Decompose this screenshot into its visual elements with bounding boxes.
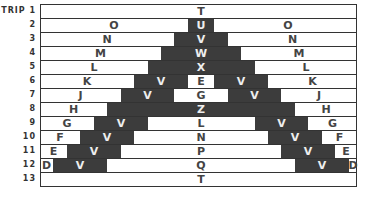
strip-row: EKKVV — [40, 75, 357, 89]
strip-row: T — [40, 4, 357, 19]
right-letter: J — [309, 89, 329, 102]
right-letter: O — [278, 19, 298, 32]
center-letter: T — [191, 5, 211, 18]
left-letter: D — [37, 159, 57, 172]
left-letter: O — [104, 19, 124, 32]
strip-number-label: 2 — [29, 20, 36, 29]
left-letter: K — [77, 75, 97, 88]
strip-number-label: 12 — [23, 160, 36, 169]
strip-number-label: 5 — [29, 62, 36, 71]
strip-row: WMM — [40, 47, 357, 61]
strip-row: UOO — [40, 19, 357, 33]
left-letter: F — [50, 131, 70, 144]
strip-row: QDDVV — [40, 159, 357, 173]
center-letter: X — [191, 61, 211, 74]
strip-row: ZHH — [40, 103, 357, 117]
strip-row: NFFVV — [40, 131, 357, 145]
center-letter: E — [191, 75, 211, 88]
strip-row: T — [40, 173, 357, 187]
center-letter: N — [191, 131, 211, 144]
v-letter-right: V — [272, 117, 292, 130]
right-letter: M — [289, 47, 309, 60]
strip-row: GJJVV — [40, 89, 357, 103]
strip-row: VNN — [40, 33, 357, 47]
strip-row: XLL — [40, 61, 357, 75]
strip-number-label: STRIP 1 — [0, 6, 36, 15]
v-letter-right: V — [312, 159, 332, 172]
center-letter: Q — [191, 159, 211, 172]
v-letter-right: V — [231, 75, 251, 88]
right-letter: F — [330, 131, 350, 144]
right-letter: K — [303, 75, 323, 88]
v-letter-left: V — [84, 145, 104, 158]
right-letter: L — [296, 61, 316, 74]
v-letter-left: V — [70, 159, 90, 172]
strip-number-label: 7 — [29, 90, 36, 99]
right-letter: N — [283, 33, 303, 46]
v-letter-right: V — [245, 89, 265, 102]
left-letter: H — [64, 103, 84, 116]
v-letter-left: V — [138, 89, 158, 102]
strip-number-label: 10 — [23, 132, 36, 141]
left-letter: L — [84, 61, 104, 74]
strip-number-label: 3 — [29, 34, 36, 43]
right-letter: G — [323, 117, 343, 130]
center-letter: V — [191, 33, 211, 46]
v-letter-left: V — [111, 117, 131, 130]
center-letter: L — [191, 117, 211, 130]
strip-number-label: 6 — [29, 76, 36, 85]
v-letter-right: V — [298, 145, 318, 158]
strip-row: LGGVV — [40, 117, 357, 131]
strip-row: PEEVV — [40, 145, 357, 159]
left-letter: G — [57, 117, 77, 130]
center-letter: G — [191, 89, 211, 102]
v-letter-left: V — [151, 75, 171, 88]
right-letter: D — [343, 159, 363, 172]
strip-number-label: 9 — [29, 118, 36, 127]
center-letter: U — [191, 19, 211, 32]
right-letter: E — [336, 145, 356, 158]
strip-number-label: 11 — [23, 146, 36, 155]
strip-number-label: 13 — [23, 174, 36, 183]
left-letter: J — [71, 89, 91, 102]
left-letter: N — [97, 33, 117, 46]
left-letter: M — [91, 47, 111, 60]
right-letter: H — [316, 103, 336, 116]
strip-number-label: 8 — [29, 104, 36, 113]
center-letter: Z — [191, 103, 211, 116]
v-letter-left: V — [97, 131, 117, 144]
strip-number-label: 4 — [29, 48, 36, 57]
center-letter: P — [191, 145, 211, 158]
v-letter-right: V — [285, 131, 305, 144]
center-letter: W — [191, 47, 211, 60]
left-letter: E — [44, 145, 64, 158]
center-letter: T — [191, 173, 211, 186]
